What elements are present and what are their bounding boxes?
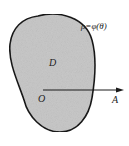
region-label: D: [48, 57, 57, 68]
origin-label: O: [38, 93, 45, 104]
region-d-shape: [10, 14, 95, 132]
polar-region-diagram: ρ=φ(θ) D O A: [0, 0, 129, 146]
curve-label: ρ=φ(θ): [80, 21, 107, 31]
axis-label-a: A: [111, 94, 119, 105]
arrowhead-icon: [116, 88, 124, 93]
